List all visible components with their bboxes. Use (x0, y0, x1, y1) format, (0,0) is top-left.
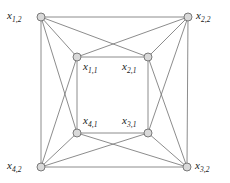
graph-node (73, 53, 81, 61)
node-label-sub: 3,2 (200, 165, 209, 174)
graph-node (144, 129, 152, 137)
node-label-x4-2: x4,2 (7, 160, 21, 171)
node-label-sub: 2,1 (127, 66, 136, 75)
graph-edge (41, 17, 77, 133)
node-label-sub: 3,1 (127, 120, 136, 129)
graph-node (144, 53, 152, 61)
node-label-sub: 2,2 (201, 15, 210, 24)
graph-canvas (0, 0, 230, 183)
node-label-sub: 4,1 (88, 120, 97, 129)
node-label-x2-1: x2,1 (122, 61, 136, 72)
node-label-x1-2: x1,2 (7, 10, 21, 21)
graph-diagram: x1,2 x2,2 x3,2 x4,2 x1,1 x2,1 x3,1 x4,1 (0, 0, 230, 183)
graph-edge (187, 17, 188, 167)
node-label-sub: 1,2 (12, 15, 21, 24)
node-label-sub: 1,1 (88, 66, 97, 75)
node-label-x4-1: x4,1 (83, 115, 97, 126)
graph-node (184, 13, 192, 21)
graph-node (37, 163, 45, 171)
node-label-x2-2: x2,2 (196, 10, 210, 21)
node-label-x3-2: x3,2 (195, 160, 209, 171)
node-label-x3-1: x3,1 (122, 115, 136, 126)
graph-node (183, 163, 191, 171)
graph-node (73, 129, 81, 137)
node-label-x1-1: x1,1 (83, 61, 97, 72)
graph-edge (148, 17, 188, 57)
node-label-sub: 4,2 (12, 165, 21, 174)
graph-node (37, 13, 45, 21)
graph-edge (41, 17, 77, 57)
edge-layer (41, 17, 188, 167)
